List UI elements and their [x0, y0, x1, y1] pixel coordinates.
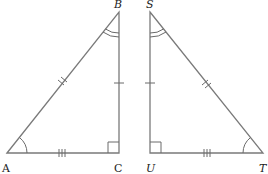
triangle-stu: [145, 12, 263, 157]
vertex-label-b: B: [113, 0, 122, 11]
right-angle-mark-u: [150, 142, 161, 153]
vertex-label-s: S: [146, 0, 154, 11]
angle-arc-t: [243, 138, 251, 154]
vertex-label-a: A: [1, 162, 11, 174]
right-angle-mark-c: [108, 142, 119, 153]
vertex-label-t: T: [259, 162, 268, 174]
congruent-triangles-diagram: A B C S T U: [0, 0, 268, 174]
angle-arc-a: [20, 138, 28, 154]
vertex-label-u: U: [146, 162, 156, 174]
triangle-stu-outline: [150, 12, 263, 153]
angle-arc-s-inner: [150, 29, 164, 33]
triangle-abc: [7, 12, 124, 157]
vertex-label-c: C: [114, 162, 122, 174]
angle-arc-b-inner: [106, 29, 120, 33]
triangle-abc-outline: [7, 12, 119, 153]
